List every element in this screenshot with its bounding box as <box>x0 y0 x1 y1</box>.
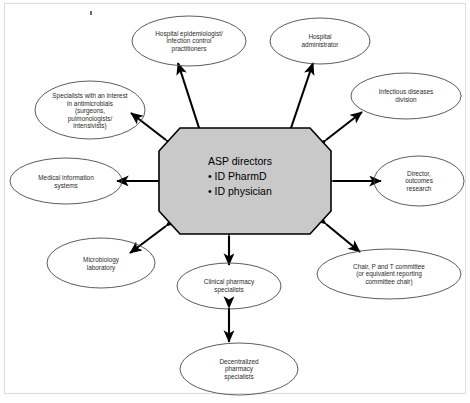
connector-hospital-administrator <box>290 63 313 131</box>
node-infectious-diseases-division[interactable] <box>351 73 461 119</box>
diagram-svg <box>0 0 470 403</box>
node-hospital-epidemiologist[interactable] <box>132 16 246 66</box>
figure-canvas: ASP directors • ID PharmD • ID physician… <box>0 0 470 403</box>
connector-specialists-antimicrobials <box>131 113 166 140</box>
asp-directors-hub-label: ASP directors • ID PharmD • ID physician <box>208 154 338 199</box>
node-specialists-antimicrobials[interactable] <box>35 81 145 139</box>
connector-chair-p-and-t-committee <box>326 224 360 252</box>
scan-artifact-mark <box>90 11 92 15</box>
connector-microbiology-laboratory <box>130 226 166 253</box>
node-decentralized-pharmacy-specialists[interactable] <box>180 343 298 395</box>
node-medical-information-systems[interactable] <box>10 158 122 204</box>
connector-infectious-diseases-division <box>326 112 362 140</box>
node-clinical-pharmacy-specialists[interactable] <box>177 263 281 309</box>
node-hospital-administrator[interactable] <box>270 18 370 64</box>
node-director-outcomes-research[interactable] <box>374 156 464 206</box>
node-chair-p-and-t-committee[interactable] <box>317 249 461 299</box>
connector-hospital-epidemiologist <box>178 63 200 131</box>
node-microbiology-laboratory[interactable] <box>47 238 155 288</box>
